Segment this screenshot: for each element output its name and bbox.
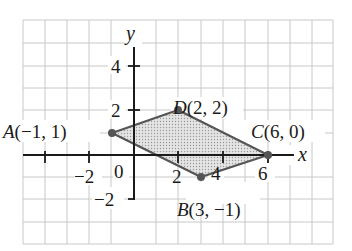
vertex-c <box>264 151 272 159</box>
y-tick-2: 2 <box>111 100 121 121</box>
label-b: B(3, −1) <box>177 199 240 221</box>
label-d: D(2, 2) <box>172 97 228 119</box>
x-tick-2: 2 <box>172 166 182 187</box>
label-c: C(6, 0) <box>251 121 305 143</box>
vertex-a <box>108 129 116 137</box>
origin-label: 0 <box>114 161 124 182</box>
vertex-b <box>197 173 205 181</box>
label-a: A(−1, 1) <box>1 121 66 143</box>
x-axis-label: x <box>297 143 307 165</box>
x-tick-neg2: −2 <box>74 166 94 187</box>
coordinate-plane: y x 4 2 −2 −2 0 2 4 6 A(−1, 1) D(2, 2) C… <box>0 0 352 251</box>
y-axis-label: y <box>124 22 135 45</box>
x-tick-4: 4 <box>211 163 221 184</box>
y-tick-4: 4 <box>111 56 121 77</box>
x-tick-6: 6 <box>258 163 268 184</box>
y-tick-neg2: −2 <box>94 189 114 210</box>
